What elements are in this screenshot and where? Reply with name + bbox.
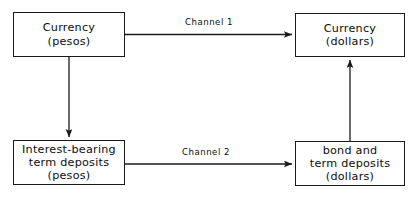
node-currency-dollars: Currency (dollars)	[295, 13, 405, 57]
edge-label-channel-2: Channel 2	[182, 147, 230, 157]
node-bond-term-deposits-dollars-line-1: bond and	[323, 144, 378, 157]
node-currency-pesos-line-2: (pesos)	[48, 35, 91, 48]
edge-label-channel-1: Channel 1	[185, 17, 233, 27]
node-currency-dollars-line-1: Currency	[324, 22, 376, 35]
node-currency-pesos: Currency (pesos)	[13, 12, 125, 57]
node-term-deposits-pesos-line-1: Interest-bearing	[22, 143, 116, 156]
node-bond-term-deposits-dollars-line-2: term deposits	[310, 157, 390, 170]
node-term-deposits-pesos: Interest-bearing term deposits (pesos)	[13, 140, 125, 185]
node-term-deposits-pesos-line-2: term deposits	[29, 156, 109, 169]
flow-diagram: Currency (pesos) Currency (dollars) Inte…	[0, 0, 419, 198]
node-term-deposits-pesos-line-3: (pesos)	[48, 169, 91, 182]
node-bond-term-deposits-dollars: bond and term deposits (dollars)	[295, 141, 405, 186]
node-currency-dollars-line-2: (dollars)	[326, 35, 374, 48]
node-bond-term-deposits-dollars-line-3: (dollars)	[326, 170, 374, 183]
node-currency-pesos-line-1: Currency	[43, 21, 95, 34]
